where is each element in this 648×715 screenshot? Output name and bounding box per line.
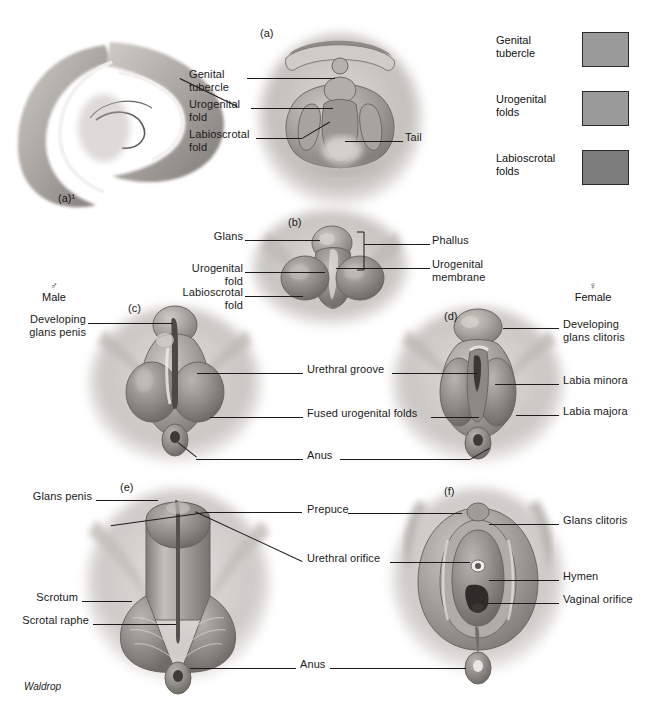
label-tail: Tail (405, 131, 422, 144)
legend-label: Labioscrotal folds (496, 152, 555, 177)
label-urethral-groove: Urethral groove (307, 363, 384, 376)
leader-anus-mid-left (196, 459, 303, 460)
leader-prepuce-left (206, 512, 302, 513)
label-vaginal-orifice: Vaginal orifice (563, 593, 633, 606)
male-header: ♂ Male (24, 280, 84, 304)
label-genital-tubercle: Genital tubercle (189, 68, 229, 93)
legend-swatch-urogenital-folds (582, 91, 629, 126)
anatomical-figure: (a)¹ (a) (b) (c) (d) (e) (f) ♂ Male ♀ Fe… (0, 0, 648, 715)
art-panel-c (89, 306, 261, 463)
panel-letter-a: (a) (260, 27, 273, 39)
leader-labia-minora (495, 384, 559, 385)
leader-anus-mid-right (340, 459, 470, 460)
label-labia-majora: Labia majora (563, 405, 628, 418)
male-symbol-icon: ♂ (24, 280, 84, 291)
leader-urethral-orifice-right (390, 562, 470, 563)
label-scrotal-raphe: Scrotal raphe (4, 614, 89, 627)
legend-label: Genital tubercle (496, 34, 535, 59)
legend-swatch-labioscrotal-folds (582, 150, 629, 185)
panel-letter-d: (d) (444, 310, 457, 322)
leader-urogenital-fold-a (251, 108, 333, 109)
label-labioscrotal-fold-b: Labioscrotal fold (170, 286, 243, 311)
legend-label: Urogenital folds (496, 93, 546, 118)
label-phallus: Phallus (432, 234, 469, 247)
panel-letter-e: (e) (120, 481, 133, 493)
label-urogenital-fold-b: Urogenital fold (176, 262, 243, 287)
leader-urogenital-fold-b (245, 272, 325, 273)
leader-genital-tubercle-right (247, 78, 335, 79)
leader-glans-clitoris (489, 524, 559, 525)
label-prepuce: Prepuce (307, 503, 349, 516)
leader-tail (345, 141, 403, 142)
female-symbol-icon: ♀ (563, 280, 623, 291)
label-urethral-orifice: Urethral orifice (307, 552, 380, 565)
leader-urethral-groove-right (392, 373, 477, 374)
label-urogenital-fold-a: Urogenital fold (189, 98, 240, 123)
art-panel-e (86, 489, 270, 694)
leader-scrotal-raphe (93, 624, 176, 625)
panel-letter-a1: (a)¹ (58, 192, 75, 204)
leader-prepuce-right (348, 513, 462, 514)
female-header: ♀ Female (563, 280, 623, 304)
leader-prepuce-left2 (111, 512, 206, 526)
label-labia-minora: Labia minora (563, 374, 628, 387)
panel-letter-b: (b) (288, 216, 301, 228)
leader-fused-urogenital-folds-right (431, 417, 479, 418)
legend-swatch-genital-tubercle (582, 32, 629, 67)
leader-labioscrotal-fold-b (245, 296, 303, 297)
label-hymen: Hymen (563, 570, 598, 583)
legend: Genital tubercle Urogenital folds Labios… (496, 32, 644, 209)
label-glans-clitoris: Glans clitoris (563, 514, 627, 527)
female-label: Female (575, 291, 612, 303)
art-panel-d (392, 307, 564, 463)
leader-anus-mid-right2 (470, 448, 490, 460)
leader-fused-urogenital-folds-left (210, 417, 303, 418)
leader-urogenital-membrane (336, 268, 430, 269)
label-urogenital-membrane: Urogenital membrane (432, 258, 485, 283)
leader-phallus (364, 244, 430, 245)
panel-letter-f: (f) (444, 485, 454, 497)
leader-anus-mid-left2 (177, 442, 197, 458)
panel-letter-c: (c) (128, 302, 141, 314)
label-labioscrotal-fold-a: Labioscrotal fold (189, 128, 250, 153)
leader-developing-glans-clitoris (503, 328, 559, 329)
leader-vaginal-orifice (487, 603, 559, 604)
leader-anus-bottom-right (330, 668, 466, 669)
legend-item-urogenital-folds: Urogenital folds (496, 91, 644, 131)
leader-labioscrotal-fold-a2 (302, 122, 330, 139)
artist-signature: Waldrop (24, 681, 61, 692)
leader-developing-glans-penis (88, 323, 172, 324)
art-panel-a (258, 34, 422, 206)
art-panel-f (392, 488, 564, 684)
label-glans: Glans (188, 230, 243, 243)
label-glans-penis: Glans penis (14, 490, 92, 503)
label-scrotum: Scrotum (14, 591, 78, 604)
legend-item-genital-tubercle: Genital tubercle (496, 32, 644, 72)
label-anus-bottom: Anus (300, 658, 325, 671)
leader-urethral-groove-left (197, 373, 303, 374)
leader-hymen (489, 580, 559, 581)
leader-glans (245, 240, 320, 241)
leader-urethral-orifice-left (195, 511, 302, 562)
legend-item-labioscrotal-folds: Labioscrotal folds (496, 150, 644, 190)
label-developing-glans-clitoris: Developing glans clitoris (563, 318, 625, 343)
label-fused-urogenital-folds: Fused urogenital folds (307, 407, 417, 420)
male-label: Male (42, 291, 66, 303)
label-anus-mid: Anus (307, 449, 332, 462)
leader-scrotum (82, 601, 132, 602)
leader-anus-bottom-left (190, 668, 296, 669)
leader-labia-majora (516, 415, 559, 416)
art-panel-a1 (18, 42, 224, 207)
label-developing-glans-penis: Developing glans penis (12, 313, 86, 338)
leader-labioscrotal-fold-a (256, 138, 302, 139)
leader-glans-penis (96, 500, 158, 501)
